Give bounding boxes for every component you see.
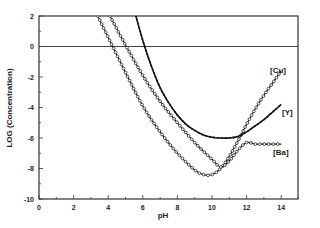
data-marker bbox=[190, 138, 193, 141]
data-marker bbox=[132, 87, 135, 90]
data-marker bbox=[216, 163, 219, 166]
data-marker bbox=[221, 137, 223, 139]
data-marker bbox=[248, 118, 251, 121]
data-marker bbox=[112, 47, 115, 50]
data-marker bbox=[215, 171, 218, 174]
data-marker bbox=[148, 85, 151, 88]
data-marker bbox=[176, 114, 178, 116]
y-tick-label: 2 bbox=[30, 13, 34, 20]
data-marker bbox=[233, 137, 235, 139]
data-marker bbox=[152, 69, 154, 71]
data-marker bbox=[130, 54, 133, 57]
series-label-ba: [Ba] bbox=[273, 148, 289, 157]
data-marker bbox=[153, 122, 156, 125]
data-marker bbox=[275, 76, 278, 79]
data-marker bbox=[113, 23, 116, 26]
data-marker bbox=[196, 144, 199, 147]
data-marker bbox=[161, 103, 164, 106]
y-tick-label: -8 bbox=[28, 165, 34, 172]
data-marker bbox=[250, 128, 252, 130]
data-marker bbox=[102, 27, 105, 30]
data-marker bbox=[244, 126, 247, 129]
data-marker bbox=[207, 174, 210, 177]
data-marker bbox=[184, 131, 187, 134]
data-marker bbox=[240, 134, 242, 136]
data-marker bbox=[263, 143, 266, 146]
data-marker bbox=[213, 137, 215, 139]
data-marker bbox=[126, 46, 129, 49]
series-y bbox=[135, 15, 281, 139]
data-marker bbox=[124, 71, 127, 74]
y-tick-label: -2 bbox=[28, 74, 34, 81]
data-marker bbox=[122, 67, 125, 70]
data-marker bbox=[233, 146, 236, 149]
data-marker bbox=[217, 137, 219, 139]
data-marker bbox=[198, 132, 200, 134]
data-marker bbox=[166, 140, 169, 143]
data-marker bbox=[119, 34, 122, 37]
data-marker bbox=[136, 19, 138, 21]
data-marker bbox=[155, 126, 158, 129]
data-marker bbox=[182, 120, 184, 122]
data-marker bbox=[238, 147, 241, 150]
data-marker bbox=[130, 83, 133, 86]
data-marker bbox=[200, 148, 203, 151]
data-marker bbox=[114, 51, 117, 54]
data-marker bbox=[272, 143, 275, 146]
data-marker bbox=[151, 89, 154, 92]
data-marker bbox=[161, 91, 163, 93]
data-marker bbox=[230, 157, 233, 160]
data-marker bbox=[121, 38, 124, 41]
series-label-y: [Y] bbox=[282, 108, 293, 117]
series-line bbox=[136, 16, 281, 138]
x-tick-label: 6 bbox=[141, 204, 145, 211]
data-marker bbox=[137, 66, 140, 69]
data-marker bbox=[229, 137, 231, 139]
data-marker bbox=[179, 117, 181, 119]
data-marker bbox=[267, 87, 270, 90]
data-marker bbox=[237, 136, 239, 138]
data-marker bbox=[267, 116, 269, 118]
data-marker bbox=[159, 87, 161, 89]
data-marker bbox=[203, 151, 206, 154]
data-marker bbox=[193, 141, 196, 144]
data-marker bbox=[172, 147, 175, 150]
data-marker bbox=[187, 135, 190, 138]
data-marker bbox=[138, 99, 141, 102]
data-marker bbox=[140, 34, 142, 36]
x-tick-label: 8 bbox=[175, 204, 179, 211]
data-marker bbox=[258, 143, 261, 146]
data-marker bbox=[146, 53, 148, 55]
data-marker bbox=[252, 110, 255, 113]
data-marker bbox=[136, 95, 139, 98]
data-marker bbox=[167, 111, 170, 114]
data-marker bbox=[110, 43, 113, 46]
data-marker bbox=[164, 107, 167, 110]
data-marker bbox=[247, 130, 249, 132]
data-marker bbox=[167, 101, 169, 103]
data-marker bbox=[148, 57, 150, 59]
data-marker bbox=[275, 108, 277, 110]
data-marker bbox=[137, 23, 139, 25]
data-marker bbox=[176, 121, 179, 124]
data-marker bbox=[187, 163, 190, 166]
data-marker bbox=[156, 80, 158, 82]
plot-border bbox=[39, 16, 298, 199]
data-marker bbox=[191, 166, 194, 169]
data-marker bbox=[96, 15, 99, 18]
data-marker bbox=[111, 19, 114, 22]
data-marker bbox=[260, 121, 262, 123]
x-axis-title: pH bbox=[158, 211, 169, 220]
data-marker bbox=[144, 78, 147, 81]
data-marker bbox=[172, 108, 174, 110]
data-marker bbox=[144, 46, 146, 48]
x-tick-label: 2 bbox=[72, 204, 76, 211]
plot-frame bbox=[39, 16, 298, 199]
data-marker bbox=[148, 115, 151, 118]
data-marker bbox=[206, 154, 209, 157]
data-marker bbox=[246, 122, 249, 125]
data-marker bbox=[158, 129, 161, 132]
data-marker bbox=[265, 91, 268, 94]
data-marker bbox=[155, 76, 157, 78]
y-tick-label: -6 bbox=[28, 135, 34, 142]
